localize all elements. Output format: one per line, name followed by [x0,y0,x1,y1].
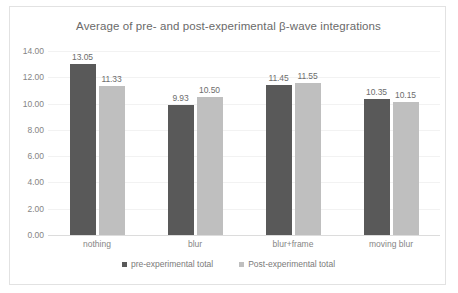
bar-value-label: 11.45 [268,73,288,83]
chart-legend: pre-experimental totalPost-experimental … [10,259,447,269]
y-axis-tick-label: 2.00 [10,204,44,214]
bar-value-label: 10.35 [366,87,387,97]
legend-item[interactable]: pre-experimental total [122,259,213,269]
bar-value-label: 11.33 [101,74,121,84]
x-axis-category-label: nothing [83,239,111,249]
x-axis-category-labels: nothingblurblur+framemoving blur [48,239,440,253]
y-axis-tick-label: 10.00 [10,99,44,109]
bar-value-label: 10.15 [395,90,416,100]
legend-swatch-icon [122,262,127,267]
bar [364,99,390,235]
bar-value-label: 9.93 [172,93,188,103]
bar-value-label: 10.50 [199,85,220,95]
y-axis-tick-label: 4.00 [10,177,44,187]
bar [295,83,321,235]
chart-title: Average of pre- and post-experimental β-… [10,20,447,32]
bars-layer: 13.0511.339.9310.5011.4511.5510.3510.15 [48,51,440,235]
bar [266,85,292,235]
bar-value-label: 11.55 [297,71,317,81]
y-axis-tick-labels: 0.002.004.006.008.0010.0012.0014.00 [10,51,44,235]
x-axis-category-label: blur [188,239,202,249]
bar-value-label: 13.05 [72,52,93,62]
y-axis-tick-label: 8.00 [10,125,44,135]
y-axis-tick-label: 6.00 [10,151,44,161]
legend-label: Post-experimental total [248,259,335,269]
y-axis-tick-label: 14.00 [10,46,44,56]
x-axis-category-label: moving blur [369,239,413,249]
y-axis-tick-label: 12.00 [10,72,44,82]
bar [197,97,223,235]
bar [393,102,419,235]
legend-item[interactable]: Post-experimental total [239,259,335,269]
x-axis-category-label: blur+frame [273,239,314,249]
legend-swatch-icon [239,262,244,267]
bar [70,64,96,236]
bar [99,86,125,235]
gridline [48,235,440,236]
y-axis-tick-label: 0.00 [10,230,44,240]
chart-container: Average of pre- and post-experimental β-… [9,6,446,285]
plot-area: 13.0511.339.9310.5011.4511.5510.3510.15 [48,51,440,235]
bar [168,105,194,236]
legend-label: pre-experimental total [131,259,213,269]
